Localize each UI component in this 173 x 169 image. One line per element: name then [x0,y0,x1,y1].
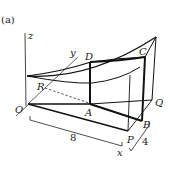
point-label-R: R [36,81,45,92]
panel-label: (a) [1,14,15,25]
edge-AB [90,104,142,121]
point-label-O: O [15,104,23,115]
z-axis-label: z [27,30,34,41]
point-label-D: D [84,51,93,62]
point-label-P: P [126,134,134,145]
edge-Q-apex [152,37,156,100]
edge-P-up [128,75,130,131]
dashed-edge-RA [45,88,89,103]
y-axis-label: y [69,47,76,58]
point-label-C: C [139,46,147,57]
point-label-A: A [84,107,92,118]
x-axis-label: x [117,147,123,158]
diagram-canvas: (a) z y D C R O A Q B P 8 4 x [0,0,173,169]
z-axis [25,33,26,106]
point-label-Q: Q [155,97,163,108]
dimension-label-8: 8 [70,132,76,143]
dimension-label-4: 4 [142,136,148,147]
edge-OP [28,104,128,131]
point-label-B: B [142,119,150,130]
